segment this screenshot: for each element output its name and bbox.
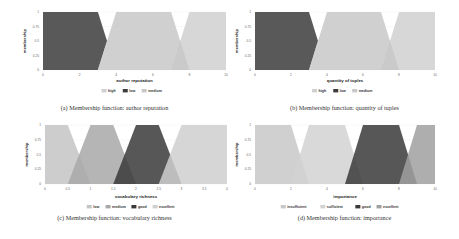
y-tick-label: 0.75	[35, 138, 41, 142]
caption-a: (a) Membership function: author reputati…	[0, 104, 229, 111]
chart-panel-c: 00.250.50.75100.511.522.533.54vocabulary…	[0, 120, 229, 239]
legend-swatch-excellent	[153, 205, 158, 208]
legend-label-good: good	[138, 205, 147, 209]
legend-swatch-high	[312, 89, 317, 92]
caption-c: (c) Membership function: vocabulary rich…	[0, 214, 229, 221]
chart-a: 00.250.50.7510246810author reputationmem…	[0, 0, 229, 105]
x-tick-label: 8	[398, 73, 400, 77]
legend-label-high: high	[108, 89, 116, 93]
x-tick-label: 3.5	[202, 187, 207, 191]
legend-swatch-low	[123, 89, 128, 92]
legend-swatch-excellent	[377, 205, 382, 208]
y-axis-label: membership	[234, 29, 239, 53]
x-tick-label: 0	[254, 187, 256, 191]
y-tick-label: 0.75	[245, 25, 251, 29]
legend-swatch-insufficient	[281, 205, 286, 208]
legend-label-excellent: excellent	[159, 205, 175, 209]
x-tick-label: 0	[44, 187, 46, 191]
y-tick-label: 1	[39, 123, 41, 127]
y-tick-label: 0.75	[245, 138, 251, 142]
y-tick-label: 0.5	[37, 153, 42, 157]
y-tick-label: 0	[37, 68, 39, 72]
area-medium	[309, 12, 399, 70]
legend-swatch-low	[333, 89, 338, 92]
area-low	[255, 12, 318, 70]
legend-label-good: good	[362, 205, 371, 209]
caption-b: (b) Membership function: quantity of tup…	[230, 104, 459, 111]
chart-panel-a: 00.250.50.7510246810author reputationmem…	[0, 0, 229, 119]
legend-swatch-good	[131, 205, 136, 208]
legend-label-sufficient: sufficient	[327, 205, 344, 209]
legend-label-high: high	[319, 89, 327, 93]
y-tick-label: 0.25	[35, 167, 41, 171]
chart-c: 00.250.50.75100.511.522.533.54vocabulary…	[0, 120, 229, 225]
y-axis-label: membership	[234, 142, 239, 166]
chart-d: 00.250.50.7510246810importancemembership…	[230, 120, 459, 225]
x-axis-label: quantity of tuples	[327, 78, 364, 83]
y-tick-label: 0	[249, 68, 251, 72]
y-axis-label: membership	[24, 142, 29, 166]
legend-swatch-sufficient	[320, 205, 325, 208]
x-tick-label: 4	[226, 187, 228, 191]
y-tick-label: 0.25	[245, 54, 251, 58]
x-tick-label: 1	[90, 187, 92, 191]
x-tick-label: 10	[433, 73, 437, 77]
x-tick-label: 0	[42, 73, 44, 77]
x-tick-label: 6	[362, 187, 364, 191]
x-tick-label: 8	[398, 187, 400, 191]
area-low	[43, 12, 107, 70]
x-axis-label: author reputation	[116, 78, 153, 83]
y-tick-label: 0.5	[247, 153, 252, 157]
x-tick-label: 0.5	[66, 187, 71, 191]
x-tick-label: 2	[135, 187, 137, 191]
legend-label-medium: medium	[148, 89, 162, 93]
legend-swatch-low	[87, 205, 92, 208]
y-axis-label: membership	[22, 29, 27, 53]
chart-b: 00.250.50.7510246810quantity of tuplesme…	[230, 0, 459, 105]
legend-swatch-good	[355, 205, 360, 208]
x-tick-label: 10	[224, 73, 228, 77]
x-tick-label: 0	[254, 73, 256, 77]
x-tick-label: 6	[362, 73, 364, 77]
y-tick-label: 0.25	[33, 54, 39, 58]
y-tick-label: 0.5	[247, 39, 252, 43]
legend-label-excellent: excellent	[383, 205, 399, 209]
legend-label-insufficient: insufficient	[287, 205, 307, 209]
x-axis-label: importance	[333, 194, 357, 199]
y-tick-label: 0.75	[33, 25, 39, 29]
legend-swatch-medium	[106, 205, 111, 208]
y-tick-label: 1	[249, 123, 251, 127]
x-tick-label: 1.5	[111, 187, 116, 191]
x-tick-label: 3	[181, 187, 183, 191]
y-tick-label: 1	[37, 10, 39, 14]
x-tick-label: 4	[326, 73, 328, 77]
x-tick-label: 2.5	[157, 187, 162, 191]
legend-label-low: low	[129, 89, 135, 93]
x-tick-label: 8	[189, 73, 191, 77]
chart-panel-b: 00.250.50.7510246810quantity of tuplesme…	[230, 0, 459, 119]
x-tick-label: 2	[290, 73, 292, 77]
y-tick-label: 0.5	[35, 39, 40, 43]
x-tick-label: 6	[152, 73, 154, 77]
x-tick-label: 2	[290, 187, 292, 191]
x-tick-label: 2	[79, 73, 81, 77]
legend-swatch-medium	[142, 89, 147, 92]
x-axis-label: vocabulary richness	[115, 194, 158, 199]
legend-swatch-high	[102, 89, 107, 92]
y-tick-label: 1	[249, 10, 251, 14]
caption-d: (d) Membership function: importance	[230, 214, 459, 221]
legend-label-low: low	[93, 205, 99, 209]
x-tick-label: 4	[115, 73, 117, 77]
chart-panel-d: 00.250.50.7510246810importancemembership…	[230, 120, 459, 239]
y-tick-label: 0.25	[245, 167, 251, 171]
area-medium	[98, 12, 189, 70]
legend-label-medium: medium	[359, 89, 373, 93]
y-tick-label: 0	[249, 182, 251, 186]
legend-swatch-medium	[352, 89, 357, 92]
legend-label-low: low	[340, 89, 346, 93]
y-tick-label: 0	[39, 182, 41, 186]
x-tick-label: 10	[433, 187, 437, 191]
legend-label-medium: medium	[112, 205, 126, 209]
x-tick-label: 4	[326, 187, 328, 191]
